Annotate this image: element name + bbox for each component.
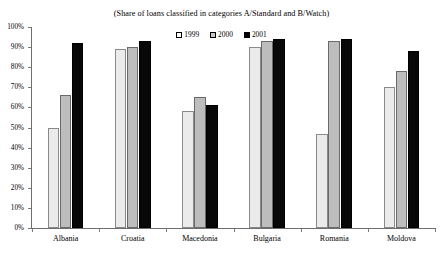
bar-albania-1999 bbox=[48, 128, 60, 229]
bar-bulgaria-2001 bbox=[273, 39, 285, 228]
bar-group bbox=[301, 27, 368, 228]
y-axis-tick-label: 0% bbox=[14, 224, 24, 232]
y-axis-tick-mark bbox=[28, 107, 31, 108]
bar-group bbox=[99, 27, 166, 228]
x-axis-tick-mark bbox=[166, 228, 167, 232]
x-axis-ticks bbox=[32, 228, 435, 232]
bar-macedonia-2001 bbox=[206, 105, 218, 228]
y-axis-tick-mark bbox=[28, 148, 31, 149]
bars-layer bbox=[32, 27, 435, 228]
bar-group bbox=[166, 27, 233, 228]
x-axis: AlbaniaCroatiaMacedoniaBulgariaRomaniaMo… bbox=[32, 234, 435, 248]
bar-moldova-2000 bbox=[396, 71, 408, 228]
y-axis-tick-mark bbox=[28, 228, 31, 229]
y-axis-tick-mark bbox=[28, 27, 31, 28]
y-axis-tick-label: 60% bbox=[11, 103, 24, 111]
y-axis-tick-label: 80% bbox=[11, 63, 24, 71]
bar-group bbox=[32, 27, 99, 228]
y-axis-tick-label: 30% bbox=[11, 164, 24, 172]
y-axis-tick-mark bbox=[28, 47, 31, 48]
y-axis-tick-label: 70% bbox=[11, 83, 24, 91]
bar-macedonia-1999 bbox=[182, 111, 194, 228]
x-axis-label-romania: Romania bbox=[320, 234, 349, 244]
bar-romania-1999 bbox=[316, 134, 328, 228]
x-axis-label-croatia: Croatia bbox=[121, 234, 145, 244]
y-axis-tick-mark bbox=[28, 128, 31, 129]
y-axis-tick-label: 20% bbox=[11, 184, 24, 192]
x-axis-tick-mark bbox=[234, 228, 235, 232]
x-axis-tick-mark bbox=[435, 228, 436, 232]
x-axis-tick-mark bbox=[99, 228, 100, 232]
x-axis-tick-mark bbox=[368, 228, 369, 232]
x-axis-label-macedonia: Macedonia bbox=[182, 234, 218, 244]
x-axis-tick-mark bbox=[32, 228, 33, 232]
bar-chart-figure: (Share of loans classified in categories… bbox=[0, 0, 443, 260]
y-axis-tick-label: 100% bbox=[7, 23, 24, 31]
y-axis-tick-label: 10% bbox=[11, 204, 24, 212]
y-axis-tick-mark bbox=[28, 87, 31, 88]
bar-albania-2000 bbox=[60, 95, 72, 228]
y-axis: 100%90%80%70%60%50%40%30%20%10%0% bbox=[0, 27, 28, 228]
bar-moldova-1999 bbox=[384, 87, 396, 228]
bar-croatia-1999 bbox=[115, 49, 127, 228]
y-axis-tick-label: 90% bbox=[11, 43, 24, 51]
y-axis-tick-mark bbox=[28, 168, 31, 169]
y-axis-tick-label: 50% bbox=[11, 124, 24, 132]
bar-bulgaria-2000 bbox=[261, 41, 273, 228]
y-axis-tick-mark bbox=[28, 188, 31, 189]
bar-macedonia-2000 bbox=[194, 97, 206, 228]
bar-moldova-2001 bbox=[408, 51, 420, 228]
x-axis-label-bulgaria: Bulgaria bbox=[253, 234, 281, 244]
x-axis-label-albania: Albania bbox=[53, 234, 78, 244]
bar-albania-2001 bbox=[72, 43, 84, 228]
x-axis-label-moldova: Moldova bbox=[387, 234, 416, 244]
chart-title: (Share of loans classified in categories… bbox=[0, 9, 443, 19]
x-axis-tick-mark bbox=[301, 228, 302, 232]
bar-bulgaria-1999 bbox=[249, 47, 261, 228]
bar-croatia-2001 bbox=[139, 41, 151, 228]
bar-group bbox=[368, 27, 435, 228]
y-axis-tick-label: 40% bbox=[11, 144, 24, 152]
bar-romania-2000 bbox=[328, 41, 340, 228]
bar-group bbox=[234, 27, 301, 228]
bar-romania-2001 bbox=[341, 39, 353, 228]
bar-croatia-2000 bbox=[127, 47, 139, 228]
y-axis-tick-mark bbox=[28, 67, 31, 68]
y-axis-tick-mark bbox=[28, 208, 31, 209]
